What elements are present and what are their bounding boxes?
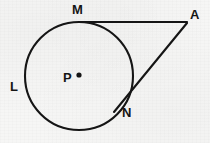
circle-label-l: L bbox=[10, 80, 18, 93]
point-label-m: M bbox=[72, 3, 83, 16]
point-label-a: A bbox=[190, 8, 199, 21]
center-point-dot bbox=[76, 72, 81, 77]
point-label-n: N bbox=[122, 106, 131, 119]
tangent-segment-lower bbox=[114, 23, 187, 112]
figure-ink-group bbox=[25, 22, 187, 130]
point-label-p: P bbox=[63, 71, 72, 84]
geometry-figure: M A N P L bbox=[0, 0, 210, 143]
figure-canvas bbox=[0, 0, 210, 143]
